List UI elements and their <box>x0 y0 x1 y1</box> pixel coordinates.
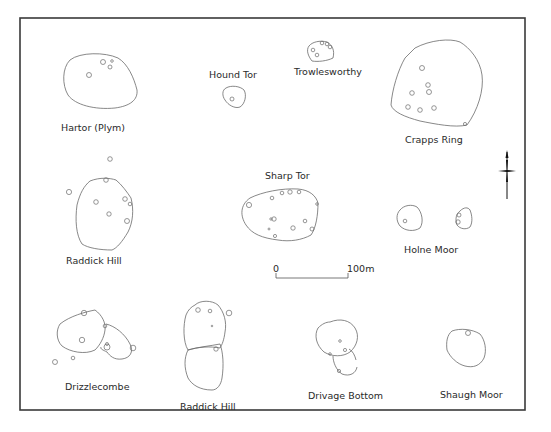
site-label: Holne Moor <box>404 244 458 255</box>
site-label: Hound Tor <box>209 69 257 80</box>
site-label: Raddick Hill <box>180 401 236 412</box>
site-label: Raddick Hill <box>66 255 122 266</box>
site-label: Crapps Ring <box>405 134 463 145</box>
figure-frame <box>20 18 525 410</box>
site-label: Trowlesworthy <box>293 66 362 77</box>
enclosure-plans-figure: Hartor (Plym) Hound Tor Trowlesworthy Cr… <box>0 0 551 432</box>
scale-end-label: 100m <box>347 263 374 274</box>
site-label: Drizzlecombe <box>65 381 130 392</box>
site-label: Shaugh Moor <box>440 389 503 400</box>
site-label: Sharp Tor <box>265 170 310 181</box>
site-label: Drivage Bottom <box>308 390 383 401</box>
site-label: Hartor (Plym) <box>61 122 125 133</box>
scale-start-label: 0 <box>273 263 279 274</box>
